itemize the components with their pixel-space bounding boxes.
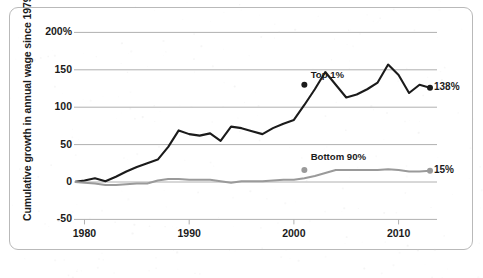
x-tick-label: 2010: [369, 227, 429, 239]
y-tick-label: 0: [66, 175, 72, 187]
series-label-top-1: Top 1%: [311, 69, 344, 80]
x-tick-label: 1990: [159, 227, 219, 239]
y-axis-title: Cumulative growth in annual wage since 1…: [21, 21, 33, 221]
y-tick-label: 50: [60, 138, 72, 150]
gridlines: [74, 32, 437, 219]
y-tick-label: -50: [57, 212, 72, 224]
x-tick-label: 1980: [54, 227, 114, 239]
series-label-bottom-90: Bottom 90%: [311, 151, 366, 162]
y-tick-label: 150: [54, 63, 72, 75]
series-end-label-top-1: 138%: [434, 81, 460, 92]
y-tick-label: 100: [54, 100, 72, 112]
y-tick-label: 200%: [45, 25, 72, 37]
series-lines: [74, 65, 430, 185]
x-tick-label: 2000: [264, 227, 324, 239]
chart-screenshot: Cumulative growth in annual wage since 1…: [0, 0, 483, 278]
series-end-label-bottom-90: 15%: [434, 164, 454, 175]
x-tick-marks: [84, 219, 398, 224]
